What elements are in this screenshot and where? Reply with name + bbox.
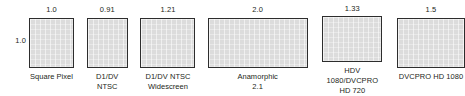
pixel-aspect-box: [397, 18, 465, 68]
pixel-aspect-box: [87, 18, 128, 68]
ratio-value-label: 2.0: [252, 0, 263, 18]
height-axis-label: 1.0: [6, 36, 26, 45]
spacer: [308, 0, 320, 1]
ratio-value-label: 1.21: [160, 0, 175, 18]
pixel-aspect-box: [208, 18, 308, 68]
ratio-item-square-pixel: 1.0 Square Pixel: [29, 0, 74, 96]
spacer: [128, 0, 140, 1]
ratio-value-label: 1.0: [46, 0, 57, 18]
pixel-aspect-box: [29, 18, 74, 68]
ratio-caption-label: DVCPRO HD 1080: [397, 72, 465, 82]
pixel-aspect-ratio-diagram: 1.0 1.0 Square Pixel 0.91 D1/DV NTSC 1.2…: [0, 0, 465, 96]
ratio-value-label: 0.91: [100, 0, 115, 18]
spacer: [195, 0, 207, 1]
ratio-item-dvcpro-hd-1080: 1.5 DVCPRO HD 1080: [397, 0, 465, 96]
ratio-caption-label: D1/DV NTSC Widescreen: [140, 72, 195, 92]
ratio-value-label: 1.33: [345, 0, 360, 16]
ratio-item-d1-dv-ntsc: 0.91 D1/DV NTSC: [86, 0, 128, 96]
ratio-caption-label: Square Pixel: [29, 72, 74, 82]
ratio-caption-label: HDV 1080/DVCPRO HD 720: [320, 66, 385, 96]
pixel-aspect-box: [140, 18, 195, 68]
ratio-item-hdv-1080-dvcpro-hd-720: 1.33 HDV 1080/DVCPRO HD 720: [320, 0, 385, 96]
spacer: [385, 0, 397, 1]
pixel-aspect-box: [322, 16, 382, 62]
ratio-caption-label: D1/DV NTSC: [86, 72, 128, 92]
ratio-box-list: 1.0 Square Pixel 0.91 D1/DV NTSC 1.21 D1…: [29, 0, 465, 96]
ratio-caption-label: Anamorphic 2.1: [208, 72, 308, 92]
ratio-item-d1-dv-ntsc-widescreen: 1.21 D1/DV NTSC Widescreen: [140, 0, 195, 96]
ratio-item-anamorphic: 2.0 Anamorphic 2.1: [208, 0, 308, 96]
spacer: [74, 0, 86, 1]
ratio-value-label: 1.5: [426, 0, 437, 18]
